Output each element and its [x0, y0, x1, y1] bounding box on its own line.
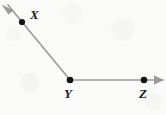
point-x-dot [19, 19, 25, 25]
point-label-z: Z [139, 87, 147, 100]
point-z-dot [141, 77, 148, 84]
point-y-dot [67, 77, 74, 84]
arrowhead-right-icon [154, 76, 165, 85]
ray-yx-line [8, 5, 70, 80]
point-label-y: Y [64, 87, 72, 100]
point-label-x: X [30, 8, 39, 21]
geometry-figure: X Y Z [0, 0, 166, 115]
